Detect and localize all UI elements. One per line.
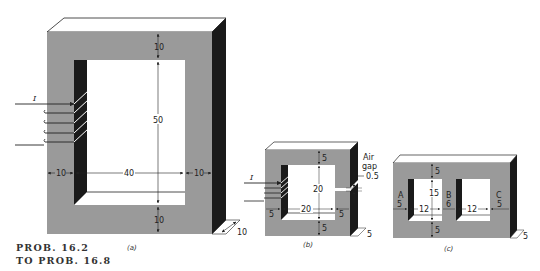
dim-b-depth: 5	[367, 230, 372, 239]
air-gap-label-2: gap	[362, 162, 377, 171]
dim-c-window2: 12	[467, 205, 477, 214]
dim-a-right: 10	[194, 169, 204, 178]
dim-c-depth: 5	[523, 232, 528, 241]
dim-a-top: 10	[154, 43, 164, 52]
leg-label-b: B	[446, 191, 452, 200]
dim-a-left: 10	[56, 169, 66, 178]
core-c-top-face	[393, 155, 517, 163]
air-gap	[335, 188, 351, 191]
dim-a-height: 50	[153, 116, 163, 125]
dim-c-top: 5	[435, 167, 440, 176]
dim-a-width: 40	[124, 169, 134, 178]
current-label-b: I	[249, 173, 254, 182]
core-b: Air gap 0.5 I 5 20 5 5 20 5 5 (b)	[244, 142, 379, 249]
dim-c-left: 5	[397, 200, 402, 209]
dim-a-bottom: 10	[154, 216, 164, 225]
leg-label-c: C	[496, 191, 502, 200]
dim-b-right: 5	[339, 210, 344, 219]
current-label-a: I	[32, 94, 37, 103]
caption-a: (a)	[127, 244, 137, 252]
air-gap-value: 0.5	[366, 172, 379, 181]
core-b-top-face	[265, 142, 358, 150]
core-c: A B C 5 15 5 5 12 6 12 5 5 (c)	[393, 155, 528, 253]
dim-c-middle: 6	[446, 200, 451, 209]
dim-b-top: 5	[322, 154, 327, 163]
caption-b: (b)	[303, 241, 313, 249]
dim-c-height: 15	[429, 189, 439, 198]
leg-label-a: A	[398, 191, 404, 200]
caption-c: (c)	[444, 245, 454, 253]
dim-b-height: 20	[313, 185, 323, 194]
core-a-window	[74, 60, 185, 205]
magnetic-cores-diagram: 10 I 10 50 10 10 40	[0, 0, 540, 271]
core-a-top-face	[47, 18, 226, 32]
core-c-side-face	[510, 155, 517, 238]
problem-title-line1: PROB. 16.2	[16, 242, 89, 253]
air-gap-label-1: Air	[363, 153, 375, 162]
dim-c-right: 5	[497, 200, 502, 209]
dim-a-depth: 10	[237, 228, 247, 237]
dim-c-window1: 12	[419, 205, 429, 214]
problem-title-line2: TO PROB. 16.8	[16, 255, 111, 266]
core-a-side-face	[212, 18, 226, 234]
dim-b-width: 20	[301, 205, 311, 214]
core-a: 10 I 10 50 10 10 40	[15, 18, 247, 252]
core-a-window-inner-side	[74, 60, 87, 205]
dim-b-left: 5	[269, 210, 274, 219]
dim-b-bottom: 5	[322, 224, 327, 233]
dim-c-bottom: 5	[435, 226, 440, 235]
